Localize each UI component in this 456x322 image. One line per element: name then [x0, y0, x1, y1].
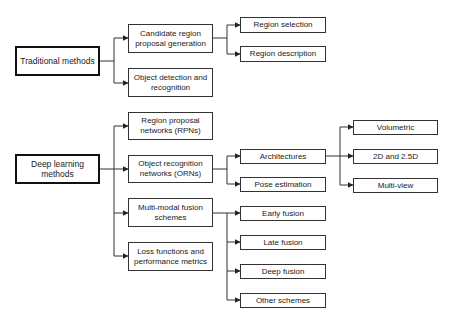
node-other-schemes: Other schemes	[240, 293, 326, 308]
node-region-description: Region description	[240, 46, 326, 62]
node-rpns: Region proposal networks (RPNs)	[128, 112, 213, 140]
node-2d-and-25d: 2D and 2.5D	[353, 149, 438, 164]
node-candidate-region-proposal: Candidate region proposal generation	[128, 24, 213, 53]
node-orns: Object recognition networks (ORNs)	[128, 155, 213, 183]
node-deep-fusion: Deep fusion	[240, 264, 326, 279]
node-deep-learning-methods: Deep learning methods	[15, 154, 100, 184]
node-multimodal-fusion: Multi-modal fusion schemes	[128, 198, 213, 227]
node-loss-functions: Loss functions and performance metrics	[128, 242, 213, 271]
node-object-detection-recognition: Object detection and recognition	[128, 68, 213, 97]
node-volumetric: Volumetric	[353, 120, 438, 135]
node-architectures: Architectures	[240, 149, 326, 164]
node-region-selection: Region selection	[240, 17, 326, 33]
node-early-fusion: Early fusion	[240, 206, 326, 221]
node-pose-estimation: Pose estimation	[240, 177, 326, 192]
node-multi-view: Multi-view	[353, 178, 438, 193]
node-traditional-methods: Traditional methods	[15, 46, 100, 76]
node-late-fusion: Late fusion	[240, 235, 326, 250]
